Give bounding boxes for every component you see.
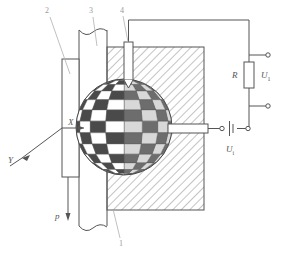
resistor-R [244, 62, 254, 88]
callout-label-2: 2 [45, 6, 49, 15]
terminal-source-right [246, 126, 250, 130]
leader-4 [123, 16, 128, 42]
terminal-source-left [220, 126, 224, 130]
load-label-p: p [54, 211, 60, 221]
output-voltage-label: U1 [261, 70, 271, 82]
terminal-output-bottom [266, 104, 270, 108]
voltage-source-symbol [230, 121, 234, 136]
right-electrode-rod [168, 124, 219, 133]
callout-label-1: 1 [119, 239, 123, 248]
input-voltage-label: Ui [226, 144, 235, 156]
axis-label-x: X [67, 117, 74, 127]
leader-2 [50, 17, 70, 74]
leader-1 [113, 209, 120, 238]
callout-label-4: 4 [120, 6, 124, 15]
load-arrow-p [66, 198, 71, 221]
checkered-spherical-element [76, 79, 172, 175]
resistor-label: R [231, 70, 238, 80]
terminal-output-top [266, 53, 270, 57]
diagram-canvas: 2 3 4 1 X Y p R U1 Ui [0, 0, 285, 253]
sensor-schematic-svg: 2 3 4 1 X Y p R U1 Ui [0, 0, 285, 253]
callout-label-3: 3 [89, 6, 93, 15]
